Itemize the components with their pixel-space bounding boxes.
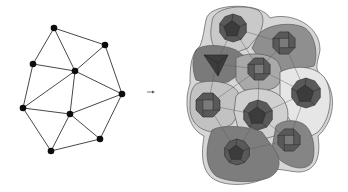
arrow-head xyxy=(152,90,155,93)
cube-icon xyxy=(248,58,270,80)
graph-node xyxy=(72,68,79,75)
graph-edge xyxy=(33,28,54,64)
transform-arrow-icon xyxy=(147,90,155,93)
graph-edge xyxy=(54,28,75,71)
graph-edge xyxy=(23,108,70,114)
graph-node xyxy=(97,136,104,143)
graph-node xyxy=(67,111,74,118)
pentagon-icon xyxy=(292,78,321,108)
pentagon-icon xyxy=(225,139,250,165)
graph-edge xyxy=(70,71,75,114)
graph-node xyxy=(102,42,109,49)
graph-edge xyxy=(33,64,75,71)
cube-icon xyxy=(273,32,295,54)
graph-edge xyxy=(51,139,100,151)
graph-edge xyxy=(70,114,100,139)
cube-icon xyxy=(278,129,300,151)
graph-node xyxy=(20,105,27,112)
pentagon-icon xyxy=(244,100,273,130)
polyhedral-cell-complex xyxy=(187,6,333,184)
graph-node xyxy=(30,61,37,68)
pentagon-icon xyxy=(220,14,247,42)
graph-edge xyxy=(23,108,51,151)
planar-graph xyxy=(20,25,126,155)
graph-node xyxy=(119,91,126,98)
cube-icon xyxy=(196,93,220,117)
graph-node xyxy=(51,25,58,32)
graph-node xyxy=(48,148,55,155)
graph-edge xyxy=(23,71,75,108)
diagram-canvas xyxy=(0,0,348,192)
graph-edge xyxy=(75,45,105,71)
graph-edge xyxy=(70,94,122,114)
graph-edge xyxy=(54,28,105,45)
graph-edge xyxy=(51,114,70,151)
